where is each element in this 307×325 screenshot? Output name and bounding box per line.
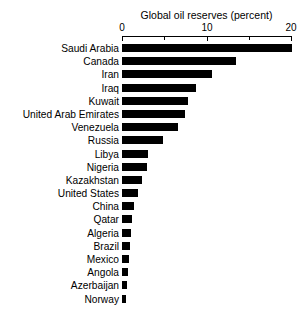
bar-label-saudi-arabia: Saudi Arabia — [61, 43, 119, 54]
bar-label-kuwait: Kuwait — [88, 96, 119, 107]
bar-label-united-arab-emirates: United Arab Emirates — [23, 109, 119, 120]
bar-azerbaijan — [122, 281, 127, 289]
x-tick-label-0: 0 — [119, 22, 125, 33]
bar-label-iraq: Iraq — [101, 83, 119, 94]
bar-row: Kazakhstan — [0, 175, 307, 188]
bar-iran — [122, 70, 212, 78]
x-tick-label-20: 20 — [285, 22, 296, 33]
bar-libya — [122, 150, 148, 158]
bar-row: Norway — [0, 294, 307, 307]
bar-label-venezuela: Venezuela — [71, 122, 119, 133]
bar-label-qatar: Qatar — [94, 214, 119, 225]
bar-venezuela — [122, 123, 178, 131]
bar-brazil — [122, 242, 130, 250]
bar-row: Angola — [0, 267, 307, 280]
bar-row: Kuwait — [0, 96, 307, 109]
x-tick-label-10: 10 — [201, 22, 212, 33]
bar-canada — [122, 57, 236, 65]
bar-row: Canada — [0, 56, 307, 69]
bar-saudi-arabia — [122, 44, 292, 52]
oil-reserves-bar-chart: Global oil reserves (percent) 01020 Saud… — [0, 0, 307, 325]
bar-china — [122, 202, 134, 210]
bar-angola — [122, 268, 128, 276]
bar-row: Iran — [0, 69, 307, 82]
bar-mexico — [122, 255, 129, 263]
bar-label-kazakhstan: Kazakhstan — [66, 175, 119, 186]
bar-algeria — [122, 229, 131, 237]
x-tick-10 — [207, 36, 208, 41]
bar-nigeria — [122, 163, 147, 171]
bar-row: United States — [0, 188, 307, 201]
bar-label-united-states: United States — [58, 188, 119, 199]
bar-label-canada: Canada — [83, 56, 119, 67]
bar-label-brazil: Brazil — [94, 241, 119, 252]
bar-row: Saudi Arabia — [0, 43, 307, 56]
bar-label-mexico: Mexico — [87, 254, 119, 265]
bar-norway — [122, 295, 126, 303]
bar-row: United Arab Emirates — [0, 109, 307, 122]
bar-row: Venezuela — [0, 122, 307, 135]
bar-rows: Saudi ArabiaCanadaIranIraqKuwaitUnited A… — [0, 43, 307, 307]
bar-russia — [122, 136, 163, 144]
bar-label-iran: Iran — [101, 69, 119, 80]
x-tick-20 — [291, 36, 292, 41]
bar-row: Nigeria — [0, 162, 307, 175]
bar-label-angola: Angola — [87, 267, 119, 278]
bar-row: Qatar — [0, 214, 307, 227]
bar-united-arab-emirates — [122, 110, 185, 118]
x-tick-0 — [122, 36, 123, 41]
bar-united-states — [122, 189, 138, 197]
x-axis: 01020 — [122, 22, 291, 42]
bar-row: Iraq — [0, 83, 307, 96]
x-tick-5 — [164, 36, 165, 40]
bar-label-azerbaijan: Azerbaijan — [71, 280, 119, 291]
bar-iraq — [122, 84, 196, 92]
bar-label-china: China — [92, 201, 119, 212]
x-tick-15 — [249, 36, 250, 40]
bar-kazakhstan — [122, 176, 142, 184]
bar-row: Algeria — [0, 228, 307, 241]
chart-title: Global oil reserves (percent) — [122, 9, 291, 21]
bar-label-algeria: Algeria — [87, 228, 119, 239]
bar-label-nigeria: Nigeria — [87, 162, 119, 173]
bar-row: Libya — [0, 149, 307, 162]
bar-row: China — [0, 201, 307, 214]
bar-row: Mexico — [0, 254, 307, 267]
bar-label-russia: Russia — [88, 135, 119, 146]
bar-row: Russia — [0, 135, 307, 148]
bar-label-norway: Norway — [84, 294, 119, 305]
bar-label-libya: Libya — [95, 149, 119, 160]
bar-qatar — [122, 215, 132, 223]
bar-kuwait — [122, 97, 188, 105]
bar-row: Azerbaijan — [0, 280, 307, 293]
bar-row: Brazil — [0, 241, 307, 254]
